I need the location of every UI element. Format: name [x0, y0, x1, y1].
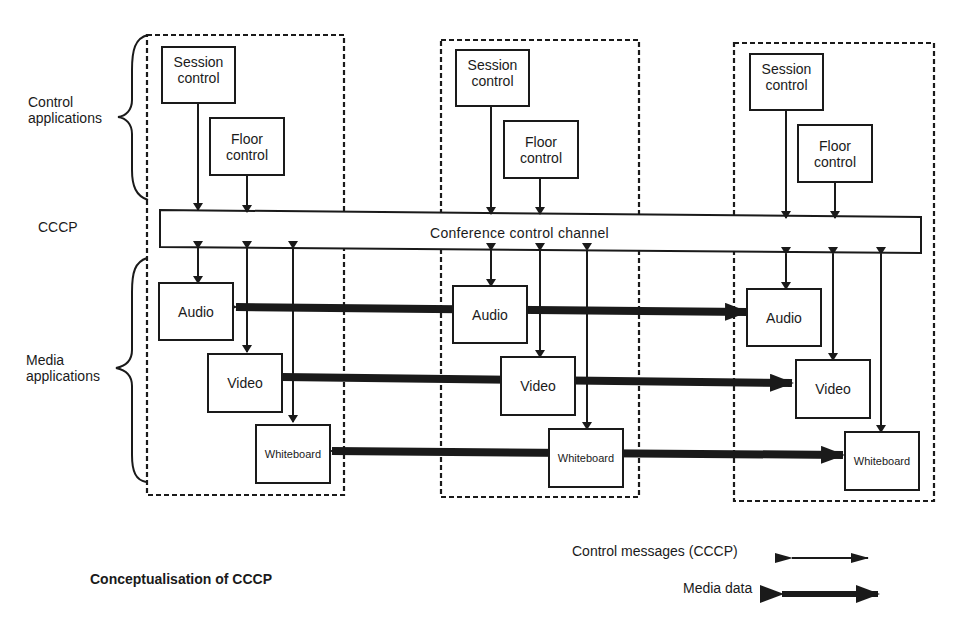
site-2-video-box: Video [500, 356, 576, 416]
site-3-session-control-box: Session control [749, 53, 824, 111]
site-2-floor-control-box: Floor control [503, 120, 579, 179]
site-2-session-control-box: Session control [455, 49, 530, 107]
site-1-whiteboard-box: Whiteboard [255, 424, 331, 484]
site-3-audio-box: Audio [746, 288, 822, 347]
site-1-video-box: Video [207, 353, 283, 413]
label-cccp: CCCP [38, 219, 78, 235]
site-1-session-control-box: Session control [161, 46, 236, 104]
site-1-floor-control-box: Floor control [209, 117, 285, 176]
label-media-applications: Media applications [26, 352, 100, 384]
legend-control-messages-label: Control messages (CCCP) [572, 543, 738, 559]
site-2-whiteboard-box: Whiteboard [548, 428, 624, 488]
site-3-floor-control-box: Floor control [797, 124, 873, 183]
label-control-applications: Control applications [28, 94, 102, 126]
brace-media-icon [116, 258, 147, 482]
site-2-audio-box: Audio [452, 285, 528, 344]
figure-caption: Conceptualisation of CCCP [90, 571, 272, 587]
brace-control-icon [118, 35, 148, 200]
channel-label: Conference control channel [430, 225, 609, 241]
braces [116, 35, 148, 482]
site-1-audio-box: Audio [158, 282, 234, 341]
site-3-video-box: Video [795, 359, 871, 419]
legend-media-data-label: Media data [683, 580, 752, 596]
site-3-whiteboard-box: Whiteboard [844, 431, 920, 491]
